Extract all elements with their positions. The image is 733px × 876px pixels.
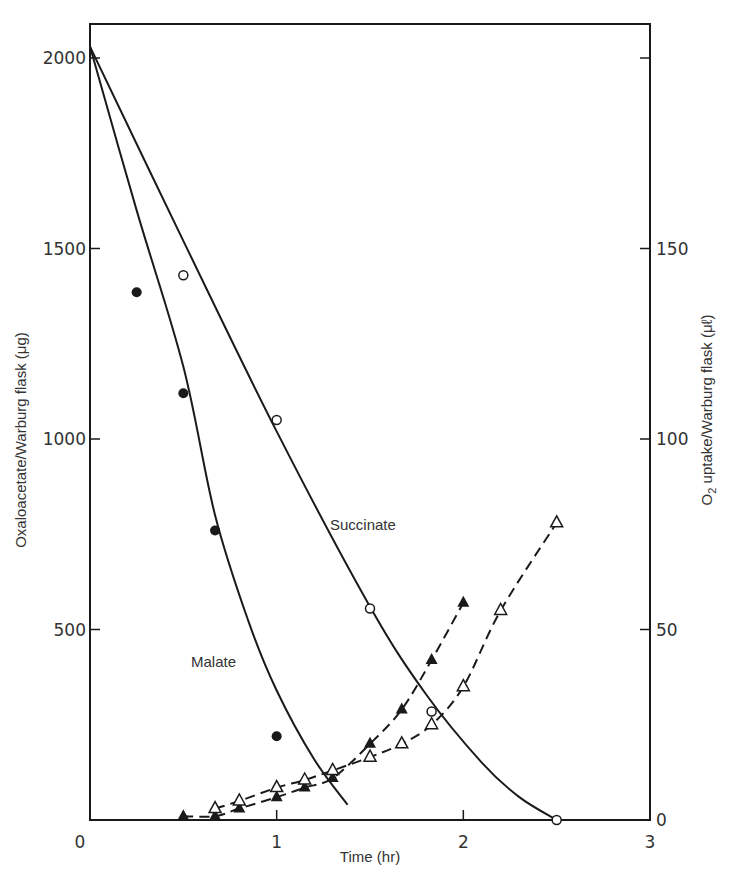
y2-title-rest: uptake/Warburg flask (μℓ) <box>698 315 715 488</box>
data-markers <box>132 271 563 825</box>
x-tick-label: 3 <box>645 832 656 852</box>
filled-circle-marker <box>132 287 142 297</box>
open-triangle-marker <box>457 680 469 691</box>
open-triangle-marker <box>396 737 408 748</box>
y-axis-title: Oxaloacetate/Warburg flask (μg) <box>12 332 29 548</box>
open-triangle-marker <box>233 794 245 805</box>
open-triangle-marker <box>426 718 438 729</box>
open-circle-marker <box>272 415 281 424</box>
open-triangle-marker <box>551 516 563 527</box>
plot-border <box>90 24 650 820</box>
y2-tick-label: 0 <box>656 810 667 830</box>
y-tick-label: 500 <box>54 620 86 640</box>
x-tick-label: 2 <box>458 832 469 852</box>
y2-tick-label: 50 <box>656 620 678 640</box>
open-circle-marker <box>366 604 375 613</box>
filled-circle-marker <box>210 525 220 535</box>
open-circle-marker <box>179 271 188 280</box>
y2-tick-label: 150 <box>656 239 688 259</box>
plot-frame <box>90 24 650 820</box>
x-axis-title: Time (hr) <box>340 848 400 865</box>
filled-circle-marker <box>178 388 188 398</box>
x-tick-label: 0 <box>75 832 86 852</box>
open-circle-marker <box>427 707 436 716</box>
o2-dashed-curve <box>183 603 463 817</box>
y2-title-o: O <box>698 494 715 506</box>
succinate-label: Succinate <box>330 516 396 533</box>
filled-triangle-marker <box>457 596 469 607</box>
y2-axis-title: O2 uptake/Warburg flask (μℓ) <box>698 315 718 506</box>
filled-circle-marker <box>272 731 282 741</box>
y-tick-label: 1000 <box>43 429 86 449</box>
x-tick-label: 1 <box>271 832 282 852</box>
open-circle-marker <box>552 816 561 825</box>
axis-ticks: 0123500100015002000050100150 <box>43 48 689 852</box>
filled-triangle-marker <box>426 653 438 664</box>
malate-label: Malate <box>191 653 236 670</box>
curves <box>90 47 557 820</box>
y-tick-label: 2000 <box>43 48 86 68</box>
filled-triangle-marker <box>177 809 189 820</box>
succinate-curve <box>90 47 557 820</box>
y2-tick-label: 100 <box>656 429 688 449</box>
y-tick-label: 1500 <box>43 239 86 259</box>
malate-curve <box>90 47 348 805</box>
chart: 0123500100015002000050100150 Time (hr) O… <box>0 0 733 876</box>
